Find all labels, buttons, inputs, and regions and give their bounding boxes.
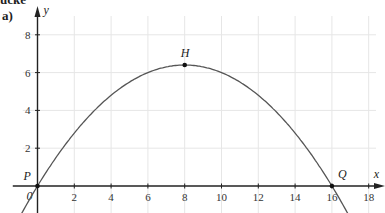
- point-p: [35, 184, 40, 189]
- x-tick-label: 10: [216, 191, 228, 203]
- point-label-h: H: [180, 46, 191, 60]
- point-h: [182, 63, 187, 68]
- x-tick-label: 8: [182, 191, 188, 203]
- y-tick-label: 2: [25, 142, 31, 154]
- x-tick-label: 14: [290, 191, 302, 203]
- x-tick-label: 2: [72, 191, 78, 203]
- parabola-chart: 2468101214161824680yxPHQ: [0, 0, 385, 213]
- x-tick-label: 4: [108, 191, 114, 203]
- x-axis-label: x: [373, 167, 380, 181]
- x-tick-label: 18: [363, 191, 375, 203]
- point-label-q: Q: [338, 167, 347, 181]
- point-q: [330, 184, 335, 189]
- x-tick-label: 6: [145, 191, 151, 203]
- x-tick-label: 12: [253, 191, 264, 203]
- y-tick-label: 4: [25, 104, 31, 116]
- point-label-p: P: [23, 169, 32, 183]
- y-axis-label: y: [43, 3, 50, 17]
- x-axis-arrow-icon: [374, 183, 385, 189]
- y-axis-arrow-icon: [35, 6, 41, 17]
- y-tick-label: 8: [25, 29, 31, 41]
- y-tick-label: 6: [25, 67, 31, 79]
